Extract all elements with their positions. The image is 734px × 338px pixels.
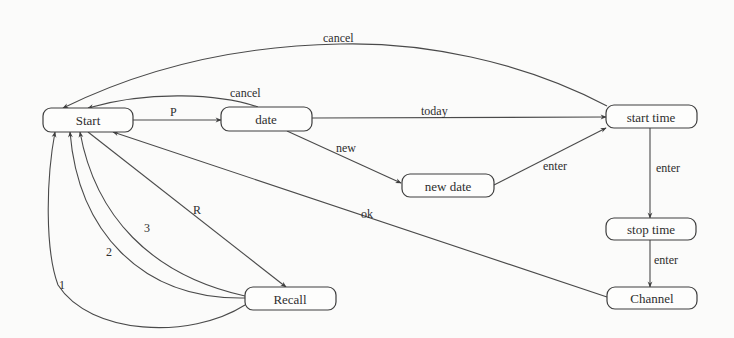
edge-start-to-recall (88, 132, 286, 287)
edge-label-3: 3 (144, 221, 150, 235)
edge-date-to-newdate (287, 131, 401, 183)
edge-label-enter-starttime: enter (656, 161, 680, 175)
node-label-new-date: new date (425, 179, 472, 194)
edge-label-ok: ok (361, 207, 373, 221)
edge-date-to-starttime-today (312, 117, 606, 118)
edge-label-cancel-inner: cancel (230, 86, 261, 100)
node-label-start-time: start time (627, 110, 676, 125)
edge-label-today: today (421, 104, 448, 118)
node-start: Start (43, 108, 133, 132)
diagram-svg: P cancel cancel today new enter enter en… (0, 0, 734, 338)
edge-label-2: 2 (106, 245, 112, 259)
edge-label-cancel-outer: cancel (323, 31, 354, 45)
node-recall: Recall (245, 287, 336, 310)
edge-label-1: 1 (59, 278, 65, 292)
state-diagram: P cancel cancel today new enter enter en… (0, 0, 734, 338)
edge-recall-to-start-2 (70, 132, 245, 298)
node-stop-time: stop time (606, 218, 696, 240)
node-label-stop-time: stop time (627, 222, 675, 237)
edge-starttime-to-start-cancel (63, 44, 607, 108)
node-start-time: start time (606, 105, 697, 128)
edge-channel-to-start-ok (113, 132, 607, 297)
node-label-start: Start (76, 113, 101, 128)
edge-label-r: R (193, 203, 201, 217)
node-label-recall: Recall (273, 292, 307, 307)
node-channel: Channel (607, 287, 697, 309)
node-date: date (221, 107, 312, 131)
edge-newdate-to-starttime (494, 128, 606, 185)
node-label-date: date (255, 112, 277, 127)
edge-label-p: P (170, 105, 177, 119)
edge-label-new: new (336, 141, 356, 155)
edge-label-enter-newdate: enter (543, 159, 567, 173)
edge-recall-to-start-3 (80, 132, 245, 296)
node-label-channel: Channel (630, 291, 674, 306)
node-new-date: new date (402, 174, 494, 197)
edge-label-enter-stoptime: enter (654, 253, 678, 267)
